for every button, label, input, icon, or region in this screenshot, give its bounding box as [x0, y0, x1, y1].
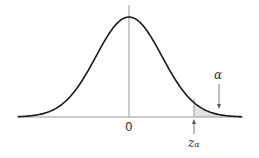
alpha-arrow-head: [217, 104, 221, 109]
origin-label: 0: [125, 121, 133, 133]
tail-area-label: α: [214, 69, 222, 81]
critical-value-subscript: α: [194, 140, 199, 149]
z-arrow-head: [192, 119, 196, 124]
bell-curve: [18, 17, 242, 117]
critical-value-label: zα: [188, 137, 200, 151]
